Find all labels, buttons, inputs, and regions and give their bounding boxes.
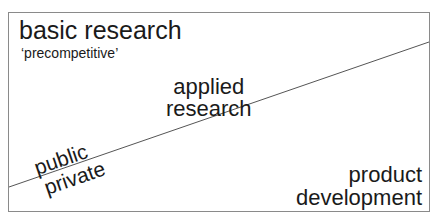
basic-research-label: basic research [19, 18, 182, 43]
applied-line: applied [166, 76, 252, 98]
applied-research-label: applied research [166, 76, 252, 120]
product-line: product [296, 163, 422, 186]
development-line: development [296, 186, 422, 209]
precompetitive-label: ‘precompetitive’ [21, 46, 118, 60]
product-development-label: product development [296, 163, 422, 209]
research-line: research [166, 98, 252, 120]
